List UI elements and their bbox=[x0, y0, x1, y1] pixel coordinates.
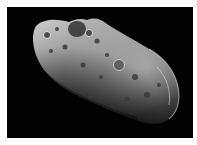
asteroid-photo bbox=[7, 7, 193, 138]
asteroid-body bbox=[7, 7, 193, 138]
asteroid-illustration bbox=[7, 7, 193, 138]
image-frame bbox=[0, 0, 197, 145]
